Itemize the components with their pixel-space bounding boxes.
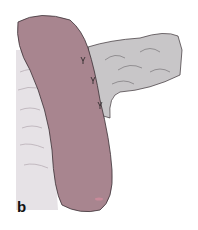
anatomical-illustration: [0, 0, 198, 230]
panel-label: b: [17, 198, 26, 215]
bowel-loop: [88, 33, 182, 118]
